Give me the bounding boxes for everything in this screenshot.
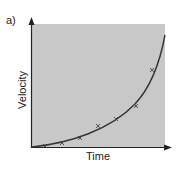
plot-area	[32, 24, 165, 147]
panel-label: a)	[6, 14, 16, 26]
x-axis-label: Time	[78, 150, 118, 162]
y-axis-arrow-icon	[29, 17, 35, 25]
y-axis-label: Velocity	[16, 64, 28, 116]
x-axis-arrow-icon	[164, 145, 172, 151]
